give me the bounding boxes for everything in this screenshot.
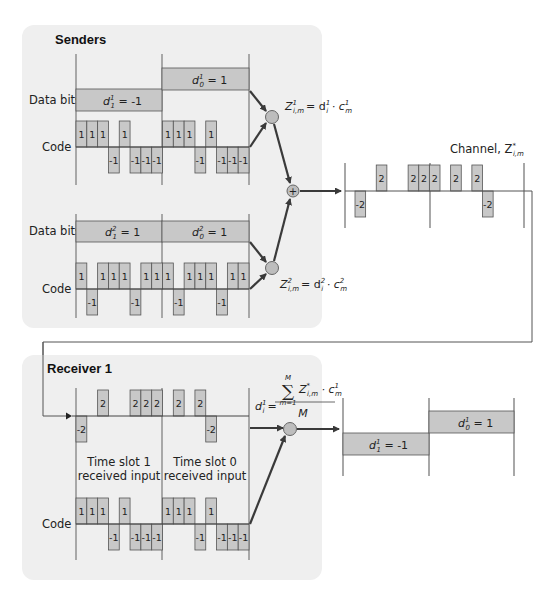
code-label: Code (42, 282, 71, 296)
data-bit-d0-label: d20 = 1 (192, 225, 227, 241)
chip-value: 1 (111, 271, 117, 282)
chip-value: 1 (165, 129, 171, 140)
chip-value: 2 (453, 173, 459, 184)
senders-title: Senders (55, 32, 106, 47)
output-bit-d1-label: d11 = -1 (369, 438, 408, 454)
multiplier-node-1 (266, 111, 279, 124)
chip-value: 2 (100, 398, 106, 409)
channel-label: Channel, Z*i,m (450, 142, 524, 158)
decode-denominator: M (298, 407, 308, 420)
chip-value: 2 (143, 398, 149, 409)
chip-value: 1 (78, 271, 84, 282)
chip-value: 2 (132, 398, 138, 409)
sum-bottom: m=1 (279, 399, 296, 407)
chip-value: -1 (142, 532, 151, 543)
slot0-label-line1: Time slot 0 (172, 455, 237, 469)
code-label: Code (42, 517, 71, 531)
chip-value: -1 (131, 155, 140, 166)
chip-value: 1 (122, 271, 128, 282)
chip-value: -2 (356, 199, 365, 210)
chip-value: -1 (174, 297, 183, 308)
chip-value: 1 (89, 506, 95, 517)
receiver-title: Receiver 1 (47, 361, 112, 376)
chip-value: -1 (87, 297, 96, 308)
slot1-label-line2: received input (78, 469, 161, 483)
chip-value: 1 (122, 506, 128, 517)
chip-value: 1 (176, 506, 182, 517)
chip-value: -1 (228, 155, 237, 166)
chip-value: 2 (432, 173, 438, 184)
cdma-diagram: Senders Data bits d11 = -1 d10 = 1 Code … (0, 0, 555, 589)
chip-value: -1 (142, 155, 151, 166)
plus-icon: + (289, 186, 297, 197)
chip-value: -1 (109, 532, 118, 543)
data-bit-d1-label: d11 = -1 (103, 94, 142, 110)
chip-value: -1 (217, 297, 226, 308)
chip-value: -1 (217, 155, 226, 166)
chip-value: -2 (206, 424, 215, 435)
chip-value: 1 (122, 129, 128, 140)
chip-value: 1 (187, 129, 193, 140)
chip-value: 1 (176, 129, 182, 140)
sum-icon: ∑ (282, 381, 294, 401)
chip-value: 1 (100, 271, 106, 282)
chip-value: 2 (474, 173, 480, 184)
chip-value: 1 (241, 271, 247, 282)
chip-value: 2 (176, 398, 182, 409)
chip-value: 1 (89, 129, 95, 140)
chip-value: 1 (197, 271, 203, 282)
chip-value: 1 (154, 271, 160, 282)
chip-value: 1 (143, 271, 149, 282)
data-bits-label: Data bits (29, 224, 81, 238)
chip-value: 1 (208, 271, 214, 282)
data-bit-d0-label: d10 = 1 (192, 73, 227, 89)
chip-value: 1 (78, 506, 84, 517)
data-bits-label: Data bits (29, 93, 81, 107)
chip-value: 2 (197, 398, 203, 409)
chip-value: 1 (208, 506, 214, 517)
data-bit-d1-label: d21 = 1 (105, 225, 140, 241)
chip-value: -1 (228, 532, 237, 543)
chip-value: -1 (196, 532, 205, 543)
receiver-panel: Receiver 1 -2222222-2 Time slot 1 receiv… (22, 342, 342, 580)
chip-value: 1 (187, 271, 193, 282)
chip-value: 2 (379, 173, 385, 184)
chip-value: 2 (154, 398, 160, 409)
chip-value: 1 (187, 506, 193, 517)
chip-value: 1 (165, 506, 171, 517)
chip-value: 2 (421, 173, 427, 184)
chip-value: 1 (208, 129, 214, 140)
chip-value: -1 (109, 155, 118, 166)
slot0-label-line2: received input (164, 469, 247, 483)
chip-value: 1 (230, 271, 236, 282)
chip-value: -1 (131, 532, 140, 543)
senders-panel: Senders Data bits d11 = -1 d10 = 1 Code … (22, 25, 352, 328)
correlator-node (284, 423, 297, 436)
slot1-label-line1: Time slot 1 (86, 455, 151, 469)
output-bit-d0-label: d10 = 1 (458, 416, 493, 432)
chip-value: -2 (483, 199, 492, 210)
decoded-output: d11 = -1 d10 = 1 (343, 398, 514, 476)
chip-value: -1 (217, 532, 226, 543)
chip-value: -1 (131, 297, 140, 308)
chip-value: -1 (196, 155, 205, 166)
multiplier-node-2 (266, 262, 279, 275)
decode-numerator: Z*i,m · c1m (298, 382, 342, 398)
receiver-panel-bg (22, 355, 322, 580)
chip-value: 1 (100, 129, 106, 140)
chip-value: -1 (152, 532, 161, 543)
product-eq-1: Z1i,m= d1i · c1m (284, 99, 352, 115)
chip-value: -1 (239, 532, 248, 543)
code-label: Code (42, 140, 71, 154)
chip-value: -1 (239, 155, 248, 166)
chip-value: 1 (78, 129, 84, 140)
chip-value: -2 (77, 424, 86, 435)
chip-value: 1 (165, 271, 171, 282)
chip-value: -1 (152, 155, 161, 166)
chip-value: 2 (410, 173, 416, 184)
product-eq-2: Z2i,m= d2i · c2m (279, 277, 347, 293)
chip-value: 1 (100, 506, 106, 517)
